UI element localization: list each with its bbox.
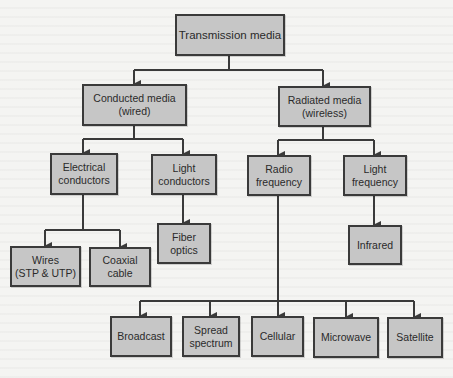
- node-wires: Wires (STP & UTP): [10, 246, 81, 287]
- node-conducted-media: Conducted media (wired): [82, 84, 187, 126]
- node-microwave: Microwave: [313, 317, 379, 358]
- node-electrical-conductors: Electrical conductors: [50, 153, 118, 195]
- node-satellite: Satellite: [387, 317, 443, 358]
- node-fiber-optics: Fiber optics: [157, 223, 211, 264]
- node-transmission-media: Transmission media: [175, 14, 285, 56]
- node-spread-spectrum: Spread spectrum: [182, 316, 240, 357]
- node-radiated-media: Radiated media (wireless): [278, 86, 371, 127]
- node-infrared: Infrared: [348, 225, 402, 265]
- node-coaxial-cable: Coaxial cable: [89, 247, 151, 287]
- node-radio-frequency: Radio frequency: [247, 155, 311, 196]
- node-light-frequency: Light frequency: [343, 155, 407, 196]
- node-light-conductors: Light conductors: [151, 154, 217, 195]
- node-cellular: Cellular: [251, 316, 304, 357]
- node-broadcast: Broadcast: [110, 316, 172, 357]
